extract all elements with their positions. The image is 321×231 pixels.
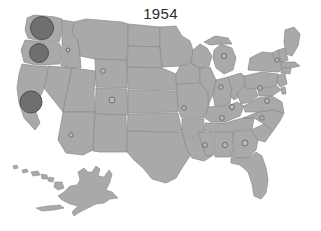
bubble-idaho[interactable] (66, 48, 70, 52)
state-oklahoma[interactable] (127, 113, 182, 132)
bubble-montana[interactable] (101, 69, 106, 74)
us-map (0, 0, 321, 231)
state-kansas[interactable] (128, 90, 178, 113)
bubble-alabama[interactable] (222, 142, 227, 147)
state-minnesota[interactable] (160, 26, 193, 67)
bubble-washington[interactable] (31, 17, 54, 40)
state-iowa[interactable] (176, 63, 200, 86)
bubble-mississippi[interactable] (203, 143, 208, 148)
state-nebraska[interactable] (127, 67, 177, 90)
state-north-dakota[interactable] (128, 24, 160, 47)
state-south-dakota[interactable] (127, 46, 162, 68)
state-connecticut[interactable] (281, 68, 291, 74)
inset-hawaii-big-island[interactable] (54, 182, 64, 190)
state-florida[interactable] (231, 152, 268, 199)
inset-hawaii-4[interactable] (41, 174, 48, 179)
bubble-new-hampshire[interactable] (275, 58, 279, 62)
state-wyoming[interactable] (95, 59, 127, 88)
bubble-michigan[interactable] (221, 53, 226, 58)
inset-hawaii-5[interactable] (48, 177, 54, 182)
bubble-kentucky[interactable] (220, 116, 225, 121)
bubble-california[interactable] (20, 91, 42, 113)
bubble-virginia[interactable] (265, 99, 270, 104)
state-michigan[interactable] (213, 44, 236, 74)
inset-hawaii-2[interactable] (22, 169, 28, 173)
states-layer (17, 15, 300, 199)
state-arizona[interactable] (58, 112, 95, 155)
bubble-wyoming[interactable] (109, 97, 115, 103)
state-wisconsin[interactable] (191, 44, 212, 68)
bubble-georgia[interactable] (242, 140, 248, 146)
state-new-jersey[interactable] (277, 74, 287, 87)
bubble-north-carolina[interactable] (260, 116, 264, 120)
map-figure: 1954 (0, 0, 321, 231)
state-michigan-upper[interactable] (204, 36, 232, 45)
bubble-pennsylvania[interactable] (258, 86, 263, 91)
inset-alaska[interactable] (58, 166, 118, 216)
insets-layer (13, 165, 118, 216)
state-montana[interactable] (72, 19, 128, 60)
bubble-ohio[interactable] (219, 85, 223, 89)
state-texas[interactable] (127, 131, 190, 183)
bubble-oregon[interactable] (30, 44, 49, 63)
state-maine[interactable] (284, 27, 300, 56)
inset-alaska-aleutians[interactable] (36, 205, 64, 211)
state-massachusetts[interactable] (281, 62, 300, 68)
state-new-mexico[interactable] (93, 114, 127, 152)
inset-hawaii-3[interactable] (31, 171, 40, 176)
state-delaware[interactable] (281, 87, 286, 94)
inset-hawaii-1[interactable] (13, 165, 18, 169)
bubble-indiana[interactable] (229, 104, 234, 109)
bubble-nebraska[interactable] (182, 106, 186, 110)
bubble-arizona[interactable] (69, 133, 73, 137)
